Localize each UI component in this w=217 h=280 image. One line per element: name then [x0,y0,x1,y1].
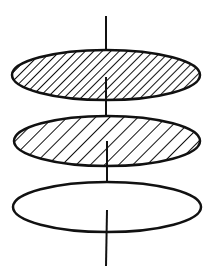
stacked-ellipses-diagram [0,0,217,280]
diagram-canvas [0,0,217,280]
axis-bottom-segment [106,210,107,266]
